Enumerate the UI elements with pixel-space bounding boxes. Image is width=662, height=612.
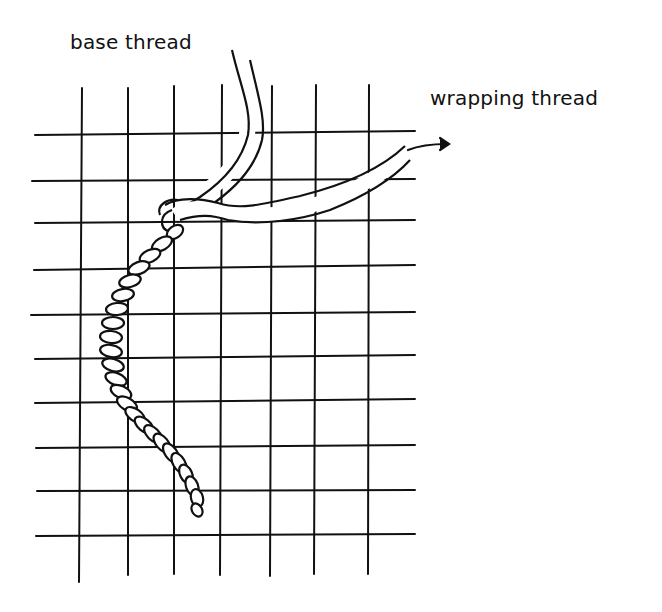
grid bbox=[31, 85, 415, 582]
wrapped-cord bbox=[99, 222, 205, 519]
diagram-canvas bbox=[0, 0, 662, 612]
direction-arrow-icon bbox=[408, 138, 449, 150]
